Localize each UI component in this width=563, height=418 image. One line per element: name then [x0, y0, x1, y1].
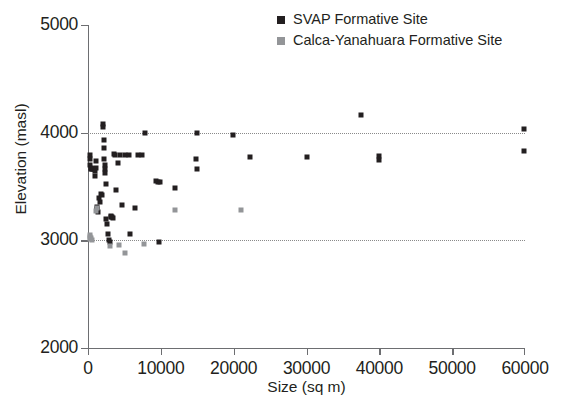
x-tick-label: 40000 [356, 358, 403, 379]
gridline [88, 133, 525, 134]
data-point [128, 231, 133, 236]
data-point [359, 113, 364, 118]
y-axis-title: Elevation (masl) [12, 64, 30, 254]
x-tick-label: 10000 [137, 358, 184, 379]
data-point [90, 238, 95, 243]
y-tick-mark [81, 348, 88, 349]
data-point [88, 157, 93, 162]
data-point [103, 182, 108, 187]
data-point [123, 251, 128, 256]
data-point [522, 127, 527, 132]
data-point [105, 231, 110, 236]
data-point [107, 244, 112, 249]
data-point [101, 124, 106, 129]
data-point [230, 133, 235, 138]
data-point [126, 153, 131, 158]
x-tick-label: 30000 [283, 358, 330, 379]
data-point [99, 193, 104, 198]
y-tick-mark [81, 133, 88, 134]
data-point [132, 206, 137, 211]
gridline [88, 240, 525, 241]
data-point [193, 156, 198, 161]
data-point [104, 222, 109, 227]
data-point [101, 138, 106, 143]
x-tick-label: 60000 [501, 358, 548, 379]
x-tick-mark [452, 348, 453, 355]
x-axis-title: Size (sq m) [88, 378, 525, 396]
y-tick-mark [81, 25, 88, 26]
x-tick-mark [307, 348, 308, 355]
y-tick-label: 2000 [40, 337, 78, 358]
legend-swatch-svap [277, 16, 285, 24]
data-point [142, 130, 147, 135]
data-point [173, 208, 178, 213]
data-point [113, 187, 118, 192]
data-point [115, 160, 120, 165]
data-point [92, 174, 97, 179]
x-tick-mark [379, 348, 380, 355]
plot-area [88, 25, 525, 348]
x-tick-mark [88, 348, 89, 355]
data-point [139, 153, 144, 158]
data-point [103, 171, 108, 176]
x-tick-mark [524, 348, 525, 355]
x-tick-mark [234, 348, 235, 355]
y-tick-label: 3000 [40, 229, 78, 250]
data-point [522, 148, 527, 153]
data-point [304, 155, 309, 160]
y-tick-label: 5000 [40, 14, 78, 35]
data-point [116, 242, 121, 247]
data-point [158, 180, 163, 185]
data-point [102, 145, 107, 150]
data-point [194, 130, 199, 135]
data-point [156, 240, 161, 245]
scatter-plot-figure: SVAP Formative Site Calca-Yanahuara Form… [0, 0, 563, 418]
y-axis-line [88, 25, 89, 348]
x-tick-label: 20000 [210, 358, 257, 379]
data-point [172, 185, 177, 190]
y-tick-label: 4000 [40, 122, 78, 143]
data-point [238, 207, 243, 212]
data-point [377, 158, 382, 163]
data-point [94, 166, 99, 171]
data-point [142, 242, 147, 247]
data-point [94, 206, 99, 211]
data-point [93, 158, 98, 163]
data-point [119, 202, 124, 207]
x-tick-mark [161, 348, 162, 355]
data-point [110, 216, 115, 221]
data-point [195, 167, 200, 172]
data-point [97, 200, 102, 205]
x-tick-label: 50000 [429, 358, 476, 379]
data-point [102, 156, 107, 161]
x-tick-label: 0 [83, 358, 92, 379]
data-point [247, 155, 252, 160]
